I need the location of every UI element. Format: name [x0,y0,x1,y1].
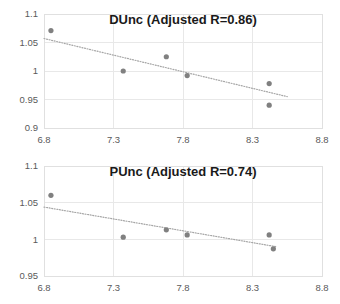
x-tick-label: 8.8 [315,134,328,145]
x-tick-label: 8.3 [246,282,259,293]
plot-area-punc: 0.9511.051.16.87.37.88.38.8 [20,160,329,293]
data-point [271,246,276,251]
y-tick-label: 1.1 [25,8,38,19]
data-point [48,193,53,198]
x-tick-label: 6.8 [37,282,50,293]
chart-title-dunc: DUnc (Adjusted R=0.86) [109,12,257,27]
data-point [164,227,169,232]
chart-panel-dunc: 0.90.9511.051.16.87.37.88.38.8 DUnc (Adj… [0,0,340,152]
x-tick-label: 8.8 [315,282,328,293]
y-tick-label: 1 [33,65,38,76]
data-point [267,232,272,237]
y-tick-label: 0.9 [25,122,38,133]
chart-panel-punc: 0.9511.051.16.87.37.88.38.8 PUnc (Adjust… [0,152,340,304]
trendline [44,39,287,97]
y-tick-label: 1.05 [20,197,39,208]
y-tick-label: 0.95 [20,94,39,105]
data-point [48,28,53,33]
data-point [164,54,169,59]
x-tick-label: 7.8 [176,282,189,293]
plot-area-dunc: 0.90.9511.051.16.87.37.88.38.8 [20,8,329,145]
x-tick-label: 7.8 [176,134,189,145]
scatter-chart-dunc: 0.90.9511.051.16.87.37.88.38.8 DUnc (Adj… [0,0,340,152]
y-tick-label: 1.05 [20,37,39,48]
data-point [121,68,126,73]
chart-title-punc: PUnc (Adjusted R=0.74) [109,164,256,179]
data-point [267,81,272,86]
data-point [267,103,272,108]
scatter-chart-punc: 0.9511.051.16.87.37.88.38.8 PUnc (Adjust… [0,152,340,304]
trendline [44,207,276,247]
data-point [185,73,190,78]
y-tick-label: 0.95 [20,270,39,281]
x-tick-label: 7.3 [107,134,120,145]
data-point [185,232,190,237]
x-tick-label: 8.3 [246,134,259,145]
x-tick-label: 6.8 [37,134,50,145]
y-tick-label: 1.1 [25,160,38,171]
data-point [121,235,126,240]
x-tick-label: 7.3 [107,282,120,293]
y-tick-label: 1 [33,234,38,245]
